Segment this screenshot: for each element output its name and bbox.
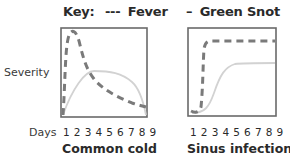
legend-snot-symbol: – — [186, 4, 192, 19]
x-ticks-sinus: 1 2 3 4 5 6 7 8 9 — [190, 126, 284, 138]
chart-sinus-infection — [187, 27, 279, 119]
legend-snot-label: Green Snot — [200, 4, 280, 19]
y-axis-label: Severity — [4, 66, 49, 79]
title-common-cold: Common cold — [62, 141, 157, 156]
legend-fever-symbol: --- — [105, 4, 121, 19]
chart-common-cold — [60, 27, 150, 119]
legend-fever-label: Fever — [128, 4, 168, 19]
x-ticks-cold: 1 2 3 4 5 6 7 8 9 — [63, 126, 157, 138]
x-axis-label: Days — [29, 126, 56, 139]
title-sinus-infection: Sinus infection — [187, 141, 290, 156]
legend: Key: --- Fever – Green Snot — [63, 4, 280, 19]
legend-prefix: Key: — [63, 4, 95, 19]
